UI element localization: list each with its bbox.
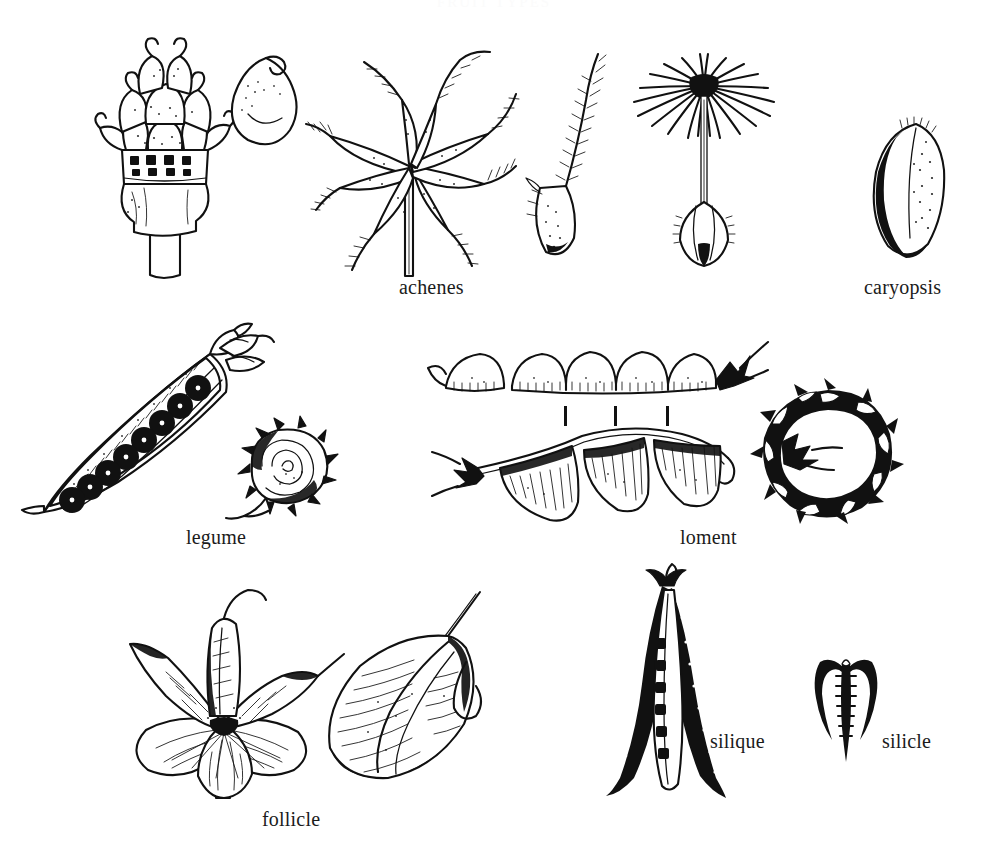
follicle-cluster-drawing: [112, 572, 342, 802]
figure-plumed-achene-star: [312, 38, 532, 283]
figure-caryopsis-grain: [862, 118, 962, 266]
figure-ring-spiny-loment: [758, 388, 898, 524]
caption-legume: legume: [186, 526, 246, 549]
figure-single-plumed-achene: [516, 48, 606, 268]
plumed-achene-star-drawing: [312, 38, 532, 283]
caryopsis-grain-drawing: [862, 118, 962, 266]
figure-pappus-achene: [614, 44, 794, 269]
loment-segment-marks: [564, 406, 669, 426]
figure-single-follicle: [316, 582, 496, 802]
teardrop-achene-drawing: [222, 52, 302, 167]
figure-silicle-pod: [806, 644, 886, 764]
figure-follicle-cluster: [112, 572, 342, 802]
spiral-spiny-legume-drawing: [232, 422, 342, 522]
scalloped-loment-drawing: [432, 424, 742, 534]
caption-caryopsis: caryopsis: [864, 276, 941, 299]
figure-teardrop-achene: [222, 52, 302, 167]
caption-follicle: follicle: [262, 808, 320, 831]
caption-silique: silique: [710, 730, 765, 753]
figure-scalloped-loment: [432, 424, 742, 534]
single-plumed-achene-drawing: [516, 48, 606, 268]
single-follicle-drawing: [316, 582, 496, 802]
plate-title: FRUIT TYPES: [0, 0, 988, 11]
silique-pod-drawing: [606, 572, 726, 802]
figure-spiral-spiny-legume: [232, 422, 342, 522]
pappus-achene-drawing: [614, 44, 794, 269]
caption-silicle: silicle: [882, 730, 931, 753]
caption-loment: loment: [680, 526, 737, 549]
ring-spiny-loment-drawing: [758, 388, 898, 524]
pea-seeds: [59, 375, 211, 513]
figure-silique-pod: [606, 572, 726, 802]
botanical-plate: FRUIT TYPES: [0, 0, 988, 865]
caption-achenes: achenes: [399, 276, 464, 299]
silicle-pod-drawing: [806, 644, 886, 764]
